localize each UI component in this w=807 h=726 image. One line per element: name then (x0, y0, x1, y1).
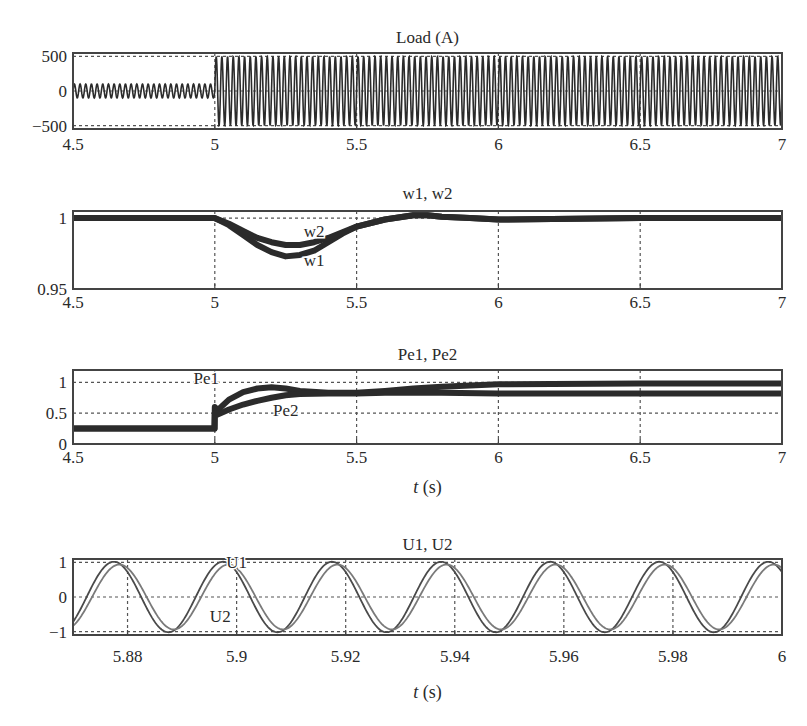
x-tick-label: 5.94 (440, 647, 470, 666)
series-label-w1: w1 (304, 251, 325, 270)
y-tick-label: 0.5 (46, 404, 67, 423)
x-tick-label: 5 (211, 135, 220, 154)
x-tick-label: 5.88 (113, 647, 143, 666)
y-tick-label: 1 (59, 553, 68, 572)
pe2-line (73, 393, 782, 429)
y-tick-label: 0 (59, 82, 68, 101)
x-tick-label: 7 (778, 448, 787, 467)
x-tick-label: 6 (494, 293, 503, 312)
y-tick-label: −500 (32, 117, 67, 136)
voltage-plot: U1, U25.885.95.925.945.965.986−101U1U2t … (49, 535, 786, 703)
voltage-title: U1, U2 (402, 535, 452, 554)
voltage-x-axis-label: t (s) (413, 682, 442, 703)
series-label-u1: U1 (226, 553, 247, 572)
series-label-u2: U2 (210, 607, 231, 626)
rotor-speed-title: w1, w2 (402, 184, 452, 203)
x-tick-label: 6.5 (630, 135, 651, 154)
series-label-pe2: Pe2 (273, 401, 299, 420)
y-tick-label: 1 (59, 209, 68, 228)
x-tick-label: 5.5 (346, 135, 367, 154)
x-tick-label: 7 (778, 293, 787, 312)
y-tick-label: 0.95 (37, 280, 67, 299)
x-tick-label: 5 (211, 448, 220, 467)
series-label-pe1: Pe1 (194, 369, 220, 388)
x-tick-label: 6 (494, 448, 503, 467)
y-tick-label: −1 (49, 623, 67, 642)
figure: Load (A)4.555.566.57−5000500 w1, w24.555… (0, 0, 807, 726)
y-tick-label: 1 (59, 373, 68, 392)
x-tick-label: 6.5 (630, 293, 651, 312)
x-tick-label: 4.5 (62, 135, 83, 154)
x-tick-label: 6.5 (630, 448, 651, 467)
x-tick-label: 7 (778, 135, 787, 154)
x-tick-label: 5.9 (226, 647, 247, 666)
load-current-title: Load (A) (396, 28, 459, 47)
electrical-power-plot: Pe1, Pe24.555.566.5700.51Pe1Pe2t (s) (46, 345, 787, 498)
electrical-power-title: Pe1, Pe2 (398, 345, 458, 364)
electrical-power-series (73, 384, 782, 429)
electrical-power-x-axis-label: t (s) (413, 477, 442, 498)
series-label-w2: w2 (304, 222, 325, 241)
x-tick-label: 5.5 (346, 448, 367, 467)
load-current-plot: Load (A)4.555.566.57−5000500 (32, 28, 787, 154)
x-tick-label: 5.98 (658, 647, 688, 666)
rotor-speed-grid (73, 211, 782, 289)
x-tick-label: 5.96 (549, 647, 579, 666)
y-tick-label: 0 (59, 588, 68, 607)
x-tick-label: 5 (211, 293, 220, 312)
w1-line (73, 215, 782, 256)
w2-line (73, 215, 782, 245)
rotor-speed-series (73, 215, 782, 256)
cropped-caption (0, 718, 807, 726)
x-tick-label: 5.92 (331, 647, 361, 666)
rotor-speed-plot: w1, w24.555.566.570.951w2w1 (37, 184, 787, 312)
rotor-speed-axes-frame (73, 211, 782, 289)
x-tick-label: 5.5 (346, 293, 367, 312)
x-tick-label: 6 (778, 647, 787, 666)
y-tick-label: 500 (42, 47, 68, 66)
x-tick-label: 6 (494, 135, 503, 154)
y-tick-label: 0 (59, 435, 68, 454)
